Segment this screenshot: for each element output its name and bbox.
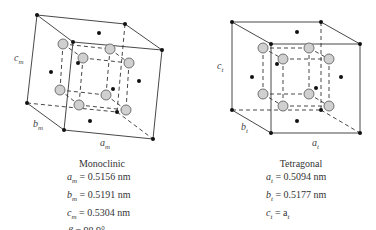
monoclinic-c-axis-label: cm — [14, 52, 24, 66]
monoclinic-small-atoms — [25, 13, 164, 141]
tetragonal-small-atoms — [230, 20, 362, 135]
monoclinic-title: Monoclinic — [67, 157, 137, 170]
tetragonal-caption: Tetragonal at = 0.5094 nm bt = 0.5177 nm… — [266, 157, 336, 224]
monoclinic-b-axis-label: bm — [33, 118, 43, 132]
monoclinic-param-a: am = 0.5156 nm — [67, 170, 137, 188]
monoclinic-param-c: cm = 0.5304 nm — [67, 206, 137, 224]
tetragonal-param-b: bt = 0.5177 nm — [266, 188, 336, 206]
monoclinic-param-b: bm = 0.5191 nm — [67, 188, 137, 206]
tetragonal-param-c: ct = at — [266, 206, 336, 224]
monoclinic-param-beta: β = 98.9° — [67, 224, 137, 230]
monoclinic-cell — [27, 15, 162, 139]
monoclinic-caption: Monoclinic am = 0.5156 nm bm = 0.5191 nm… — [67, 157, 137, 230]
tetragonal-param-a: at = 0.5094 nm — [266, 170, 336, 188]
tetragonal-b-axis-label: bt — [241, 121, 248, 135]
monoclinic-a-axis-label: am — [100, 137, 110, 151]
tetragonal-title: Tetragonal — [266, 157, 336, 170]
tetragonal-large-atoms — [258, 43, 334, 111]
tetragonal-c-axis-label: ct — [217, 60, 223, 74]
tetragonal-a-axis-label: at — [312, 137, 319, 151]
